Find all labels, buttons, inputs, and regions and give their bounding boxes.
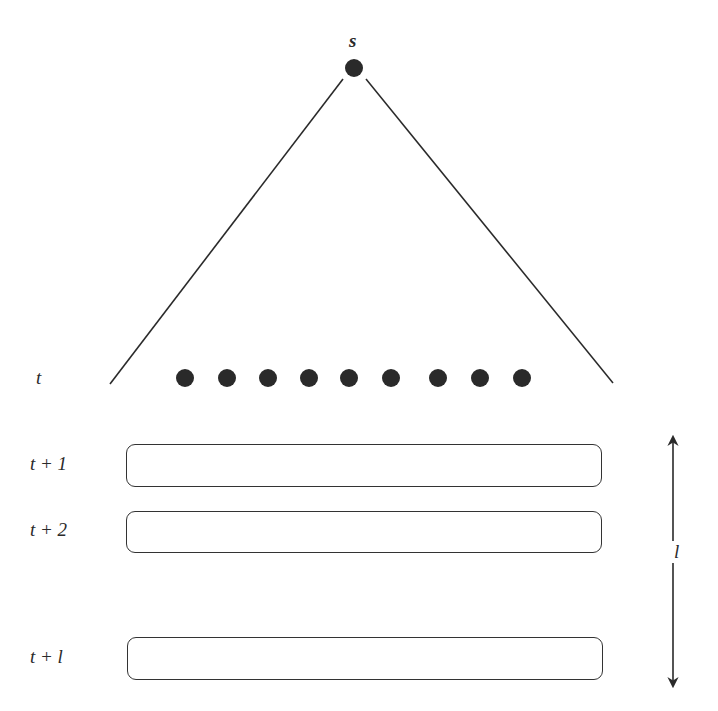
frontier-node-dot bbox=[340, 369, 358, 387]
frontier-node-dot bbox=[382, 369, 400, 387]
frontier-node-dot bbox=[176, 369, 194, 387]
root-label-s: s bbox=[349, 31, 356, 50]
stage-label-t-plus-2: t + 2 bbox=[30, 520, 67, 539]
lookahead-diagram: s t t + 1 t + 2 t + l l bbox=[0, 0, 718, 711]
diagram-canvas bbox=[0, 0, 718, 711]
stage-label-t-plus-1: t + 1 bbox=[30, 454, 67, 473]
stage-box-t-plus-l bbox=[127, 637, 603, 680]
frontier-node-dot bbox=[218, 369, 236, 387]
frontier-node-dot bbox=[259, 369, 277, 387]
tree-edge-left bbox=[110, 79, 343, 384]
span-length-label-l: l bbox=[674, 542, 679, 561]
frontier-node-dot bbox=[513, 369, 531, 387]
frontier-level-label-t: t bbox=[36, 368, 41, 387]
stage-box-t-plus-1 bbox=[126, 444, 602, 487]
root-node bbox=[345, 59, 363, 77]
tree-edge-right bbox=[366, 79, 613, 383]
frontier-node-dot bbox=[429, 369, 447, 387]
frontier-node-dot bbox=[300, 369, 318, 387]
frontier-node-dot bbox=[471, 369, 489, 387]
stage-box-t-plus-2 bbox=[126, 511, 602, 553]
root-node-dot bbox=[345, 59, 363, 77]
frontier-nodes bbox=[176, 369, 531, 387]
tree-edges bbox=[110, 79, 613, 384]
stage-label-t-plus-l: t + l bbox=[30, 647, 63, 666]
